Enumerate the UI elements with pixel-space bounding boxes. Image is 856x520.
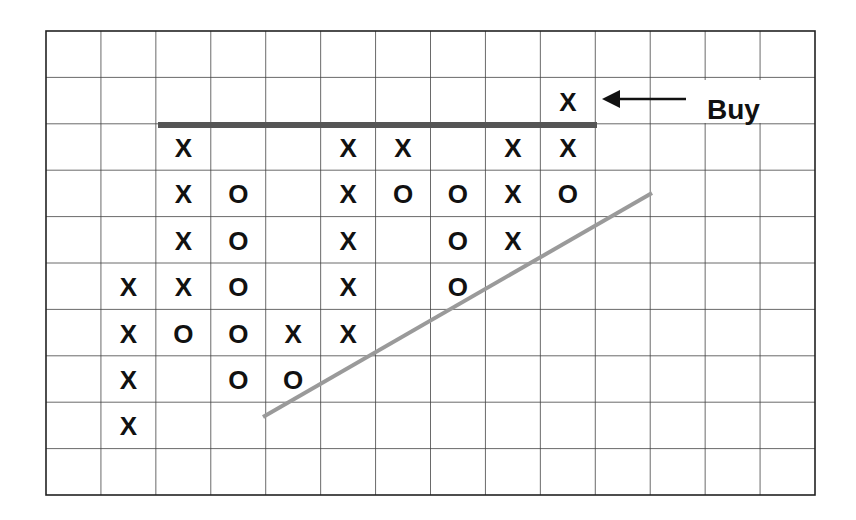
x-mark: X xyxy=(339,179,357,209)
o-mark: O xyxy=(173,319,193,349)
x-mark: X xyxy=(339,319,357,349)
o-mark: O xyxy=(228,319,248,349)
x-mark: X xyxy=(339,272,357,302)
buy-label: Buy xyxy=(707,94,760,125)
x-mark: X xyxy=(120,319,138,349)
x-mark: X xyxy=(120,272,138,302)
o-mark: O xyxy=(558,179,578,209)
o-mark: O xyxy=(448,226,468,256)
x-mark: X xyxy=(394,133,412,163)
x-mark: X xyxy=(504,179,522,209)
x-mark: X xyxy=(175,272,193,302)
point-and-figure-chart: XXXXXXXOXOOXOXOXOXXXOXOXOOXXXOOX Buy xyxy=(0,0,856,520)
o-mark: O xyxy=(228,179,248,209)
x-mark: X xyxy=(175,133,193,163)
o-mark: O xyxy=(448,179,468,209)
x-mark: X xyxy=(504,226,522,256)
o-mark: O xyxy=(228,365,248,395)
x-mark: X xyxy=(285,319,303,349)
x-mark: X xyxy=(339,226,357,256)
x-mark: X xyxy=(559,87,577,117)
x-mark: X xyxy=(504,133,522,163)
o-mark: O xyxy=(228,272,248,302)
o-mark: O xyxy=(228,226,248,256)
x-mark: X xyxy=(120,365,138,395)
x-mark: X xyxy=(120,411,138,441)
x-mark: X xyxy=(175,179,193,209)
o-mark: O xyxy=(393,179,413,209)
x-mark: X xyxy=(339,133,357,163)
chart-marks: XXXXXXXOXOOXOXOXOXXXOXOXOOXXXOOX xyxy=(120,87,578,442)
x-mark: X xyxy=(175,226,193,256)
x-mark: X xyxy=(559,133,577,163)
o-mark: O xyxy=(283,365,303,395)
o-mark: O xyxy=(448,272,468,302)
